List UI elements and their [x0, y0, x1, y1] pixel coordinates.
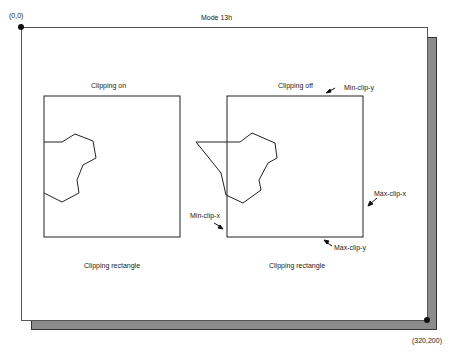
- corner-dot-icon: [424, 317, 430, 323]
- unclipped-polygon: [196, 133, 277, 203]
- diagram-title: Mode 13h: [201, 14, 232, 22]
- panel-right-caption: Clipping rectangle: [269, 262, 325, 270]
- corner-label: (320,200): [412, 337, 442, 345]
- arrowhead-min-clip-y-icon: [326, 89, 331, 93]
- origin-dot-icon: [18, 24, 24, 30]
- max-clip-y-label: Max-clip-y: [334, 244, 366, 252]
- clip-rect-left: [44, 96, 180, 237]
- origin-label: (0,0): [9, 12, 23, 20]
- diagram-graphics: [0, 0, 452, 356]
- panel-right-heading: Clipping off: [278, 82, 313, 90]
- panel-left-heading: Clipping on: [91, 82, 126, 90]
- min-clip-y-label: Min-clip-y: [344, 84, 374, 92]
- clipped-polygon: [44, 134, 96, 202]
- panel-left-caption: Clipping rectangle: [84, 262, 140, 270]
- clip-rect-right: [227, 96, 363, 237]
- max-clip-x-label: Max-clip-x: [374, 190, 406, 198]
- min-clip-x-label: Min-clip-x: [190, 212, 220, 220]
